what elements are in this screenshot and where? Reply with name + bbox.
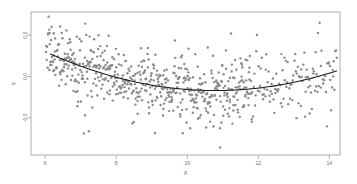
scatter-point — [271, 93, 273, 95]
scatter-point — [76, 105, 78, 107]
scatter-point — [141, 99, 143, 101]
scatter-point — [155, 74, 157, 76]
scatter-point — [251, 91, 253, 93]
scatter-point — [160, 95, 162, 97]
scatter-point — [145, 90, 147, 92]
scatter-point — [207, 46, 209, 48]
y-tick-label: 0.5 — [22, 31, 28, 38]
scatter-point — [121, 86, 123, 88]
scatter-point — [134, 97, 136, 99]
scatter-point — [323, 79, 325, 81]
scatter-point — [99, 65, 101, 67]
scatter-point — [195, 97, 197, 99]
scatter-point — [280, 102, 282, 104]
scatter-point — [235, 92, 237, 94]
scatter-point — [179, 115, 181, 117]
scatter-point — [237, 111, 239, 113]
scatter-point — [281, 69, 283, 71]
scatter-point — [176, 106, 178, 108]
scatter-point — [189, 127, 191, 129]
scatter-point — [322, 82, 324, 84]
scatter-point — [82, 77, 84, 79]
scatter-point — [236, 99, 238, 101]
scatter-point — [50, 26, 52, 28]
scatter-point — [222, 73, 224, 75]
scatter-point — [183, 90, 185, 92]
scatter-point — [88, 35, 90, 37]
scatter-point — [244, 94, 246, 96]
scatter-point — [98, 80, 100, 82]
scatter-point — [128, 87, 130, 89]
scatter-point — [243, 81, 245, 83]
scatter-point — [186, 68, 188, 70]
scatter-point — [148, 80, 150, 82]
scatter-point — [255, 50, 257, 52]
scatter-point — [84, 81, 86, 83]
scatter-point — [174, 39, 176, 41]
scatter-point — [173, 65, 175, 67]
scatter-point — [218, 71, 220, 73]
scatter-point — [156, 97, 158, 99]
scatter-point — [116, 88, 118, 90]
scatter-point — [79, 69, 81, 71]
scatter-point — [251, 121, 253, 123]
scatter-point — [192, 76, 194, 78]
scatter-point — [246, 59, 248, 61]
scatter-point — [329, 79, 331, 81]
scatter-point — [136, 100, 138, 102]
scatter-point — [314, 51, 316, 53]
scatter-point — [200, 114, 202, 116]
scatter-point — [270, 83, 272, 85]
scatter-point — [165, 82, 167, 84]
scatter-point — [326, 125, 328, 127]
scatter-point — [264, 95, 266, 97]
scatter-point — [139, 74, 141, 76]
scatter-point — [127, 81, 129, 83]
scatter-point — [330, 109, 332, 111]
scatter-point — [210, 96, 212, 98]
y-tick-label: -0.5 — [22, 113, 28, 122]
scatter-point — [127, 97, 129, 99]
scatter-point — [106, 91, 108, 93]
scatter-point — [107, 80, 109, 82]
scatter-point — [241, 63, 243, 65]
scatter-point — [229, 101, 231, 103]
scatter-point — [239, 57, 241, 59]
scatter-point — [317, 32, 319, 34]
scatter-point — [88, 130, 90, 132]
scatter-point — [45, 59, 47, 61]
scatter-point — [248, 67, 250, 69]
scatter-point — [179, 92, 181, 94]
scatter-point — [84, 56, 86, 58]
scatter-point — [204, 81, 206, 83]
scatter-point — [51, 56, 53, 58]
scatter-point — [223, 92, 225, 94]
scatter-point — [148, 112, 150, 114]
scatter-point — [307, 76, 309, 78]
scatter-point — [320, 86, 322, 88]
scatter-point — [47, 16, 49, 18]
scatter-point — [257, 65, 259, 67]
scatter-point — [91, 58, 93, 60]
scatter-point — [117, 73, 119, 75]
scatter-point — [227, 80, 229, 82]
scatter-point — [219, 95, 221, 97]
scatter-point — [198, 91, 200, 93]
scatter-point — [306, 68, 308, 70]
scatter-point — [123, 86, 125, 88]
scatter-point — [227, 113, 229, 115]
scatter-point — [109, 89, 111, 91]
scatter-point — [205, 110, 207, 112]
scatter-point — [318, 22, 320, 24]
scatter-point — [177, 82, 179, 84]
scatter-point — [292, 79, 294, 81]
scatter-point — [249, 55, 251, 57]
scatter-plot-figure: 68101214 0.50.0-0.5 X Y — [0, 0, 357, 184]
scatter-point — [185, 77, 187, 79]
scatter-point — [45, 51, 47, 53]
scatter-point — [284, 79, 286, 81]
scatter-point — [259, 67, 261, 69]
scatter-point — [67, 67, 69, 69]
scatter-point — [225, 68, 227, 70]
scatter-point — [316, 91, 318, 93]
